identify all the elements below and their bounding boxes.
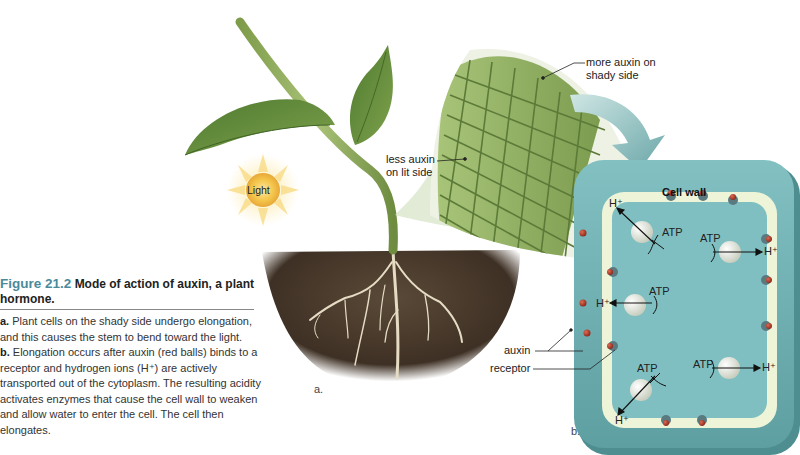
panel-a-label: a. [314, 383, 323, 395]
light-label: Light [247, 184, 270, 197]
h-ion-label: H⁺ [596, 297, 610, 310]
h-ion-label: H⁺ [762, 361, 776, 374]
cell-wall-label: Cell wall [662, 186, 706, 198]
atp-label: ATP [649, 285, 670, 298]
receptor-label: receptor [490, 362, 530, 375]
caption-part-a: a. Plant cells on the shady side undergo… [0, 314, 262, 345]
atp-label: ATP [700, 232, 721, 245]
less-auxin-line2: on lit side [386, 166, 435, 179]
caption-marker-a: a. [0, 315, 9, 327]
less-auxin-label: less auxin on lit side [386, 153, 435, 179]
more-auxin-line1: more auxin on [586, 56, 656, 69]
auxin-label: auxin [504, 344, 530, 357]
h-ion-label: H⁺ [615, 414, 629, 427]
less-auxin-line1: less auxin [386, 153, 435, 166]
more-auxin-line2: shady side [586, 69, 656, 82]
caption-marker-b: b. [0, 346, 10, 358]
atp-label: ATP [637, 362, 658, 375]
panel-b-label: b. [571, 425, 580, 437]
caption-divider [0, 309, 254, 310]
figure-caption-body: a. Plant cells on the shady side undergo… [0, 314, 262, 438]
leaves [185, 45, 393, 155]
figure-number: Figure 21.2 [0, 276, 71, 291]
atp-label: ATP [693, 358, 714, 371]
atp-label: ATP [662, 226, 683, 239]
figure-caption-title: Figure 21.2 Mode of action of auxin, a p… [0, 276, 262, 307]
caption-part-b: b. Elongation occurs after auxin (red ba… [0, 345, 262, 438]
more-auxin-label: more auxin on shady side [586, 56, 656, 82]
h-ion-label: H⁺ [764, 245, 778, 258]
h-ion-label: H⁺ [609, 197, 623, 210]
caption-text-b: Elongation occurs after auxin (red balls… [0, 346, 261, 436]
caption-text-a: Plant cells on the shady side undergo el… [0, 315, 252, 343]
